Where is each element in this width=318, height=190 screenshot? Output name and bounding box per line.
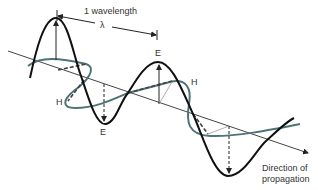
- h-label-left: H: [56, 97, 63, 107]
- lambda-symbol: λ: [100, 20, 105, 30]
- construction-lines: [159, 82, 229, 134]
- magnetic-field-wave: [28, 59, 300, 136]
- h-label-right: H: [191, 77, 198, 87]
- e-label-top: E: [155, 48, 161, 58]
- e-label-bottom: E: [100, 127, 106, 137]
- direction-label-line2: propagation: [262, 174, 310, 184]
- electric-field-wave: [30, 18, 294, 176]
- direction-label-line1: Direction of: [262, 163, 308, 173]
- em-wave-diagram: [0, 0, 318, 190]
- propagation-axis: [8, 51, 308, 153]
- wavelength-label: 1 wavelength: [84, 6, 137, 16]
